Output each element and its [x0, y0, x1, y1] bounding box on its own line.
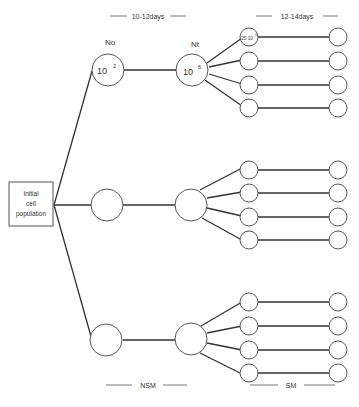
sm-circles-left [240, 28, 258, 382]
no-exponent: 2 [113, 63, 116, 69]
phase2-medium-label: SM [286, 382, 297, 389]
nt-value: 10 [183, 67, 193, 77]
cell-expansion-diagram: 10-12days 12-14days No Nt 10 2 10 6 25·1… [0, 0, 359, 407]
nt-circle-2 [175, 189, 207, 221]
nt-circle-3 [175, 323, 207, 355]
phase2-duration-label: 12-14days [281, 13, 314, 21]
col-no-label: No [105, 38, 116, 47]
nt-exponent: 6 [198, 64, 201, 70]
col-nt-label: Nt [191, 40, 200, 49]
root-label-line2: cell [26, 200, 36, 207]
no-circle-3 [90, 324, 122, 356]
sm-circles-right [329, 28, 347, 382]
sub-value: 25·10 [241, 36, 253, 41]
nt-circles [175, 54, 208, 355]
root-label-line1: Initial [23, 190, 39, 197]
no-circles [90, 54, 124, 356]
no-circle-2 [91, 189, 123, 221]
no-value: 10 [97, 66, 107, 76]
root-label-line3: population [16, 210, 46, 218]
phase1-duration-label: 10-12days [132, 13, 165, 21]
phase1-medium-label: NSM [140, 382, 156, 389]
